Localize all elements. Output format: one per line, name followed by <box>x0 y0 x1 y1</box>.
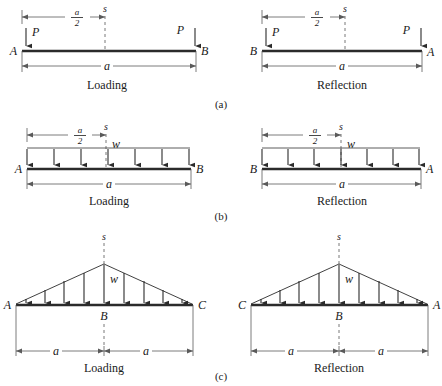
panel-a-reflection: a 2 s P P B A a Reflection <box>250 3 435 92</box>
half-span-denominator: 2 <box>78 136 83 146</box>
section-label-s: s <box>104 121 108 132</box>
node-label-left: C <box>238 298 247 312</box>
section-label-s: s <box>339 121 343 132</box>
node-label-center: B <box>100 309 108 323</box>
section-label-s: s <box>103 3 107 14</box>
half-span-numerator: a <box>313 125 318 135</box>
node-label-right: B <box>196 162 204 176</box>
beam-diagram-svg: a 2 s P P A B a Loading a 2 s P <box>0 0 442 386</box>
panel-caption-c-loading: Loading <box>84 361 124 375</box>
point-load-label-left: P <box>271 25 280 39</box>
panel-caption-b-loading: Loading <box>89 194 129 208</box>
panel-b-reflection: a 2 s w B A a Reflection <box>250 121 434 208</box>
panel-a-loading: a 2 s P P A B a Loading <box>9 3 209 92</box>
distributed-load-label: w <box>347 137 355 151</box>
span-label-right: a <box>143 344 149 358</box>
node-label-left: A <box>3 298 12 312</box>
panel-caption-a-reflection: Reflection <box>317 78 367 92</box>
section-label-s: s <box>102 231 106 242</box>
panel-caption-c-reflection: Reflection <box>314 361 364 375</box>
panel-c-loading: s w A C B a a Loading <box>3 231 207 375</box>
span-label-right: a <box>378 344 384 358</box>
figure-root: a 2 s P P A B a Loading a 2 s P <box>0 0 442 386</box>
node-label-right: A <box>432 298 441 312</box>
half-span-denominator: 2 <box>313 136 318 146</box>
panel-caption-a-loading: Loading <box>87 78 127 92</box>
span-label: a <box>104 59 110 73</box>
node-label-right: A <box>425 162 434 176</box>
section-label-s: s <box>343 3 347 14</box>
node-label-right: A <box>426 45 435 59</box>
node-label-center: B <box>335 309 343 323</box>
uniform-load-arrows <box>262 149 419 165</box>
panel-c-reflection: s w C A B a a Reflection <box>238 231 441 375</box>
node-label-left: B <box>250 44 258 58</box>
subfigure-label-c: (c) <box>215 370 228 383</box>
span-label: a <box>106 177 112 191</box>
subfigure-label-a: (a) <box>215 98 228 111</box>
triangular-load-arrows <box>261 265 417 303</box>
uniform-load-arrows <box>27 149 189 165</box>
point-load-label-right: P <box>402 23 411 37</box>
half-span-denominator: 2 <box>315 18 320 28</box>
point-load-label-right: P <box>176 23 185 37</box>
distributed-load-label: w <box>345 272 353 286</box>
half-span-numerator: a <box>78 125 83 135</box>
subfigure-label-b: (b) <box>215 210 228 223</box>
span-label-left: a <box>53 344 59 358</box>
distributed-load-label: w <box>112 137 120 151</box>
panel-b-loading: a 2 s w A B a Loading <box>14 121 204 208</box>
triangular-load-arrows <box>26 265 182 303</box>
half-span-numerator: a <box>75 7 80 17</box>
node-label-right: C <box>198 298 207 312</box>
span-label: a <box>339 59 345 73</box>
node-label-right: B <box>201 44 209 58</box>
span-label-left: a <box>288 344 294 358</box>
node-label-left: B <box>250 162 258 176</box>
node-label-left: A <box>9 44 18 58</box>
distributed-load-label: w <box>110 272 118 286</box>
span-label: a <box>339 177 345 191</box>
half-span-numerator: a <box>315 7 320 17</box>
section-label-s: s <box>337 231 341 242</box>
half-span-denominator: 2 <box>75 18 80 28</box>
node-label-left: A <box>14 162 23 176</box>
panel-caption-b-reflection: Reflection <box>317 194 367 208</box>
point-load-label-left: P <box>31 25 40 39</box>
